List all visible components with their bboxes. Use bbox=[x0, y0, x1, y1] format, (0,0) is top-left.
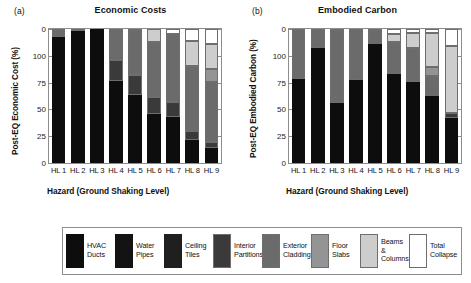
panel-title-b: Embodied Carbon bbox=[236, 5, 471, 15]
legend-label: Total Collapse bbox=[430, 242, 457, 259]
x-tick-label: HL 2 bbox=[308, 166, 327, 175]
x-tick-label: HL 9 bbox=[442, 166, 461, 175]
y-tick-label: 50 bbox=[37, 105, 46, 114]
y-tick-mark bbox=[458, 109, 461, 110]
legend-label: Exterior Cladding bbox=[283, 242, 311, 259]
y-tick-mark bbox=[218, 29, 221, 30]
x-axis-label-a: Hazard (Ground Shaking Level) bbox=[47, 186, 169, 196]
x-tick-label: HL 8 bbox=[183, 166, 202, 175]
x-tick-label: HL 4 bbox=[106, 166, 125, 175]
y-tick-mark bbox=[49, 109, 52, 110]
y-tick-mark bbox=[218, 83, 221, 84]
x-tick-label: HL 8 bbox=[423, 166, 442, 175]
x-ticks-b: HL 1HL 2HL 3HL 4HL 5HL 6HL 7HL 8HL 9 bbox=[289, 166, 461, 175]
x-tick-label: HL 6 bbox=[145, 166, 164, 175]
legend-swatch bbox=[164, 234, 182, 268]
y-tick-mark bbox=[458, 136, 461, 137]
x-tick-label: HL 3 bbox=[87, 166, 106, 175]
y-tick-mark bbox=[458, 56, 461, 57]
y-tick-mark bbox=[49, 136, 52, 137]
y-tick-label: 0 bbox=[282, 25, 286, 34]
y-tick-mark bbox=[49, 163, 52, 164]
legend-swatch bbox=[66, 234, 84, 268]
x-tick-label: HL 1 bbox=[289, 166, 308, 175]
y-tick-label: 100 bbox=[33, 51, 46, 60]
legend-item[interactable]: HVAC Ducts bbox=[66, 234, 115, 268]
x-axis-label-b: Hazard (Ground Shaking Level) bbox=[286, 186, 408, 196]
x-tick-label: HL 3 bbox=[327, 166, 346, 175]
legend-swatch bbox=[409, 234, 427, 268]
y-tick-mark bbox=[49, 83, 52, 84]
y-tick-label: 50 bbox=[277, 105, 286, 114]
y-tick-mark bbox=[289, 109, 292, 110]
y-tick-label: 0 bbox=[282, 159, 286, 168]
legend-item[interactable]: Water Pipes bbox=[115, 234, 164, 268]
y-tick-mark bbox=[458, 163, 461, 164]
x-tick-label: HL 5 bbox=[125, 166, 144, 175]
panel-embodied-carbon: (b) Embodied Carbon Post-EQ Embodied Car… bbox=[236, 0, 471, 215]
y-tick-mark bbox=[218, 136, 221, 137]
x-tick-label: HL 9 bbox=[202, 166, 221, 175]
legend-swatch bbox=[213, 234, 231, 268]
x-tick-label: HL 2 bbox=[68, 166, 87, 175]
legend-label: Water Pipes bbox=[136, 242, 154, 259]
y-tick-mark bbox=[289, 83, 292, 84]
legend-swatch bbox=[311, 234, 329, 268]
x-tick-label: HL 5 bbox=[365, 166, 384, 175]
legend-item[interactable]: Total Collapse bbox=[409, 234, 458, 268]
x-tick-label: HL 7 bbox=[164, 166, 183, 175]
y-tick-mark bbox=[289, 136, 292, 137]
y-tick-label: 0 bbox=[42, 159, 46, 168]
y-tick-mark bbox=[458, 83, 461, 84]
legend-item[interactable]: Exterior Cladding bbox=[262, 234, 311, 268]
x-ticks-a: HL 1HL 2HL 3HL 4HL 5HL 6HL 7HL 8HL 9 bbox=[49, 166, 221, 175]
y-tick-mark bbox=[49, 29, 52, 30]
legend-item[interactable]: Ceiling Tiles bbox=[164, 234, 213, 268]
plot-area-b: 01007550250 HL 1HL 2HL 3HL 4HL 5HL 6HL 7… bbox=[288, 28, 462, 164]
x-tick-label: HL 6 bbox=[385, 166, 404, 175]
panel-title-a: Economic Costs bbox=[0, 5, 235, 15]
y-tick-label: 100 bbox=[273, 51, 286, 60]
figure-legend: HVAC DuctsWater PipesCeiling TilesInteri… bbox=[62, 227, 462, 275]
y-tick-label: 75 bbox=[37, 78, 46, 87]
y-tick-mark bbox=[218, 163, 221, 164]
y-tick-mark bbox=[218, 56, 221, 57]
y-ticks-a: 01007550250 bbox=[49, 29, 221, 163]
legend-item[interactable]: Floor Slabs bbox=[311, 234, 360, 268]
y-tick-label: 25 bbox=[37, 132, 46, 141]
y-tick-label: 25 bbox=[277, 132, 286, 141]
x-tick-label: HL 7 bbox=[404, 166, 423, 175]
legend-label: Beams & Columns bbox=[381, 238, 409, 264]
y-axis-label-a: Post-EQ Economic Cost (%) bbox=[11, 47, 20, 155]
y-tick-mark bbox=[458, 29, 461, 30]
x-tick-label: HL 4 bbox=[346, 166, 365, 175]
legend-item[interactable]: Interior Partitions bbox=[213, 234, 262, 268]
x-tick-label: HL 1 bbox=[49, 166, 68, 175]
y-tick-label: 0 bbox=[42, 25, 46, 34]
y-axis-label-b: Post-EQ Embodied Carbon (%) bbox=[249, 39, 258, 158]
legend-item[interactable]: Beams & Columns bbox=[360, 234, 409, 268]
legend-label: Ceiling Tiles bbox=[185, 242, 206, 259]
panel-economic-costs: (a) Economic Costs Post-EQ Economic Cost… bbox=[0, 0, 235, 215]
y-tick-mark bbox=[289, 56, 292, 57]
y-tick-mark bbox=[49, 56, 52, 57]
legend-swatch bbox=[115, 234, 133, 268]
legend-label: Floor Slabs bbox=[332, 242, 349, 259]
y-tick-mark bbox=[289, 29, 292, 30]
legend-label: Interior Partitions bbox=[234, 242, 263, 259]
y-tick-label: 75 bbox=[277, 78, 286, 87]
legend-label: HVAC Ducts bbox=[87, 242, 106, 259]
legend-swatch bbox=[360, 234, 378, 268]
y-ticks-b: 01007550250 bbox=[289, 29, 461, 163]
y-tick-mark bbox=[218, 109, 221, 110]
plot-area-a: 01007550250 HL 1HL 2HL 3HL 4HL 5HL 6HL 7… bbox=[48, 28, 222, 164]
y-tick-mark bbox=[289, 163, 292, 164]
legend-swatch bbox=[262, 234, 280, 268]
